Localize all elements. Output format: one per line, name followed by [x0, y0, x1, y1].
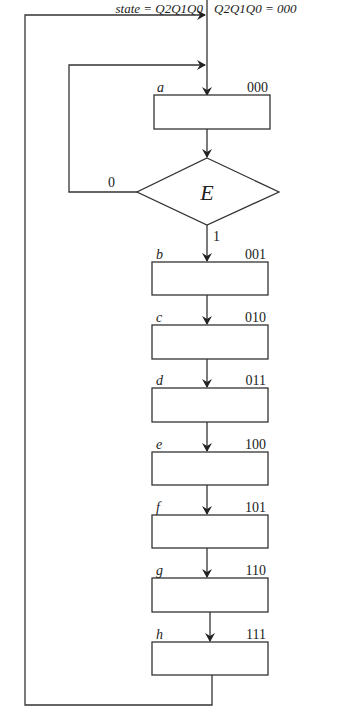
state-code: 110: [246, 563, 266, 578]
state-name: a: [157, 80, 164, 95]
state-box-g: g 110: [152, 563, 268, 612]
state-code: 100: [245, 437, 266, 452]
decision-true-label: 1: [213, 229, 220, 244]
state-box-a: a 000: [154, 80, 270, 129]
decision-name: E: [199, 180, 214, 205]
state-code: 101: [245, 500, 266, 515]
state-name: f: [156, 500, 162, 515]
state-code: 000: [247, 80, 268, 95]
state-name: c: [156, 310, 163, 325]
state-code: 010: [245, 310, 266, 325]
state-code: 111: [246, 627, 266, 642]
state-code: 001: [245, 247, 266, 262]
state-name: e: [156, 437, 162, 452]
asm-chart: state = Q2Q1Q0 Q2Q1Q0 = 000 a 000 E 0 1 …: [0, 0, 345, 709]
state-name: g: [156, 563, 163, 578]
decision-diamond-e: E 0 1: [108, 158, 279, 244]
initial-state-label: Q2Q1Q0 = 000: [214, 1, 297, 16]
decision-false-label: 0: [108, 175, 115, 190]
state-name: d: [156, 373, 164, 388]
state-box-d: d 011: [152, 373, 268, 422]
state-name: h: [156, 627, 163, 642]
state-box-b: b 001: [152, 247, 268, 295]
state-name: b: [156, 247, 163, 262]
state-definition-label: state = Q2Q1Q0: [116, 1, 204, 16]
state-box-f: f 101: [152, 500, 268, 548]
state-box-e: e 100: [152, 437, 268, 485]
state-box-c: c 010: [152, 310, 268, 359]
state-code: 011: [246, 373, 266, 388]
